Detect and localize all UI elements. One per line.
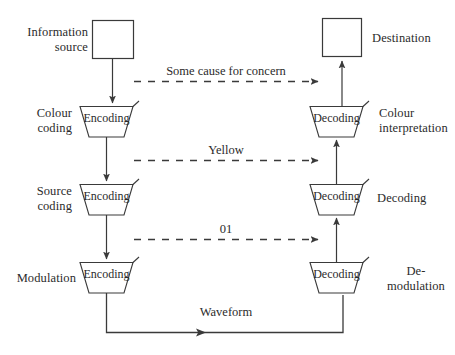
destination-box bbox=[323, 19, 362, 57]
label-decoding-stage: Decoding bbox=[377, 191, 453, 206]
decoding-node-2-label: Decoding bbox=[308, 190, 365, 203]
label-modulation: Modulation bbox=[4, 271, 76, 286]
label-source-coding: Source coding bbox=[8, 184, 72, 214]
diagram-canvas: Encoding Encoding Encoding Decoding Deco… bbox=[0, 0, 455, 355]
label-destination: Destination bbox=[372, 31, 454, 46]
encoding-node-3-label: Encoding bbox=[78, 268, 135, 281]
channel-label-waveform: Waveform bbox=[130, 305, 322, 319]
channel-label-concern: Some cause for concern bbox=[130, 64, 322, 78]
label-information-source: Information source bbox=[8, 25, 88, 55]
channel-label-binary: 01 bbox=[130, 222, 322, 236]
decoding-node-3-label: Decoding bbox=[308, 268, 365, 281]
label-colour-interpretation: Colour interpretation bbox=[379, 106, 455, 136]
label-de-modulation: De- modulation bbox=[377, 264, 455, 294]
encoding-node-1-label: Encoding bbox=[78, 112, 135, 125]
decoding-node-1-label: Decoding bbox=[308, 112, 365, 125]
label-colour-coding: Colour coding bbox=[8, 106, 72, 136]
channel-label-yellow: Yellow bbox=[130, 143, 322, 157]
information-source-box bbox=[93, 21, 134, 59]
encoding-node-2-label: Encoding bbox=[78, 190, 135, 203]
